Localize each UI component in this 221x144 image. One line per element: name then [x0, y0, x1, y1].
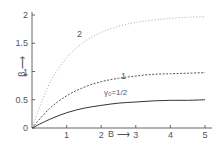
x-tick-label: 2	[99, 130, 104, 140]
y-tick-label: 0.5	[15, 95, 28, 105]
y-tick-label: 2	[23, 10, 28, 20]
x-tick-label: 1	[64, 130, 69, 140]
curve-label-half: γ₀=1/2	[104, 88, 127, 97]
curve-2	[32, 17, 205, 128]
curve-γ0=1/2	[32, 100, 205, 128]
y-tick-label: 0	[23, 123, 28, 133]
x-tick-label: 4	[168, 130, 173, 140]
x-tick-label: 3	[133, 130, 138, 140]
x-axis-label: B ⟶	[108, 130, 130, 139]
x-tick-label: 5	[202, 130, 207, 140]
y-axis-label: β ⟶	[18, 56, 27, 77]
plot-area: 1234500.511.52	[0, 0, 221, 144]
curve-label-1: 1	[121, 72, 126, 81]
chart: 1234500.511.52 2 1 γ₀=1/2 B ⟶ β ⟶	[0, 0, 221, 144]
curve-label-2: 2	[77, 30, 82, 39]
y-tick-label: 1.5	[15, 38, 28, 48]
